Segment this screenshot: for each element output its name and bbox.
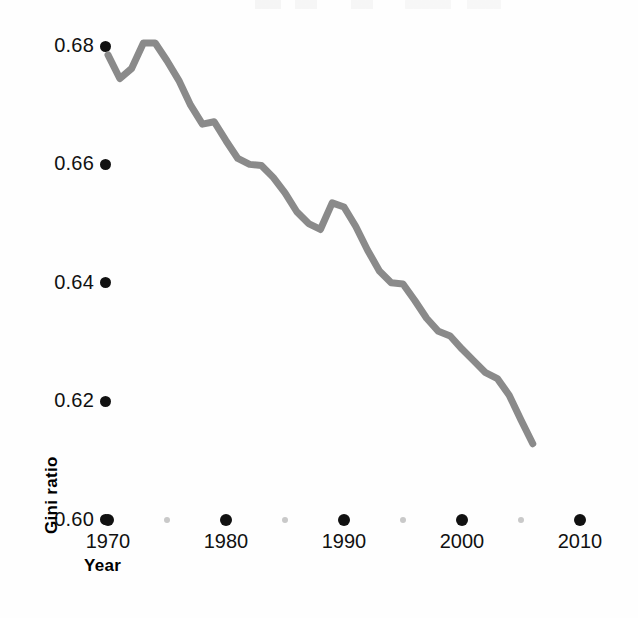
x-axis-title: Year xyxy=(84,556,121,576)
chart-figure: 0.600.620.640.660.68 1970198019902000201… xyxy=(0,0,638,618)
plot-area xyxy=(0,0,638,618)
series-line-gini-ratio xyxy=(108,43,533,444)
y-axis-title: Gini ratio xyxy=(42,456,62,534)
